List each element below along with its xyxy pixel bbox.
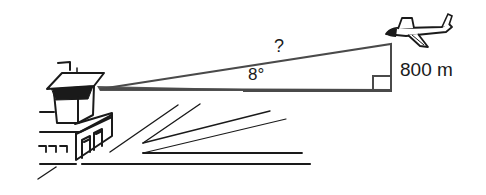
control-tower-icon [39,62,112,164]
right-angle-marker [373,76,391,91]
hypotenuse-label: ? [274,36,284,56]
angle-label: 8° [248,65,264,84]
right-triangle [100,44,391,91]
diagram-canvas: ? 8° 800 m [0,0,486,195]
height-label: 800 m [400,59,453,80]
airplane-icon [386,14,452,47]
